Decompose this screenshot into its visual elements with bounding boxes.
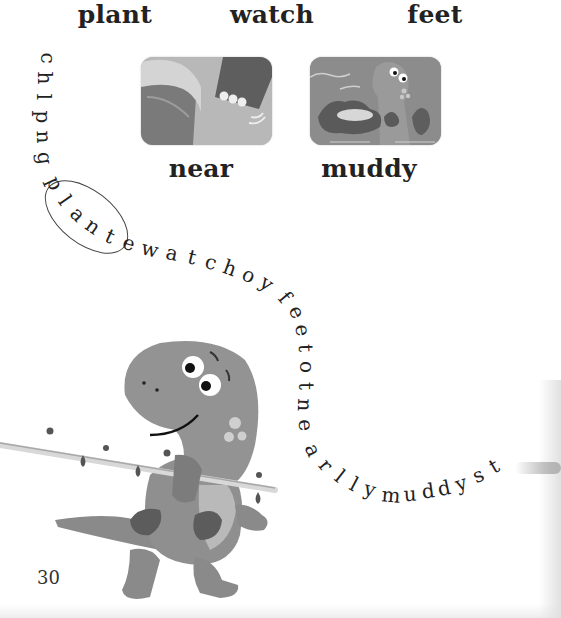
chain-letter[interactable]: c — [38, 48, 58, 68]
chain-letter[interactable]: l — [34, 87, 54, 107]
chain-letter[interactable]: m — [380, 484, 402, 506]
muddy-picture — [310, 57, 441, 145]
caption-muddy: muddy — [321, 154, 417, 183]
page-number: 30 — [37, 567, 60, 588]
workbook-page: plant watch feet near — [0, 0, 561, 618]
chain-letter[interactable]: g — [34, 147, 57, 170]
word-feet: feet — [407, 0, 462, 29]
dinosaur-illustration — [0, 335, 300, 605]
chain-letter[interactable]: p — [33, 107, 53, 127]
caption-near: near — [169, 154, 234, 183]
chain-letter[interactable]: o — [297, 357, 317, 377]
near-picture — [141, 57, 272, 145]
word-watch: watch — [230, 0, 314, 29]
page-edge-shadow — [539, 380, 561, 618]
wheel-and-foot-illustration — [141, 57, 272, 145]
page-bottom-shadow — [0, 604, 561, 618]
chain-letter[interactable]: w — [138, 237, 162, 261]
word-plant: plant — [78, 0, 152, 29]
chain-letter[interactable]: n — [34, 127, 55, 148]
muddy-dinosaur-illustration — [310, 57, 441, 145]
chain-letter[interactable]: y — [358, 477, 382, 501]
chain-letter[interactable]: h — [35, 68, 55, 88]
